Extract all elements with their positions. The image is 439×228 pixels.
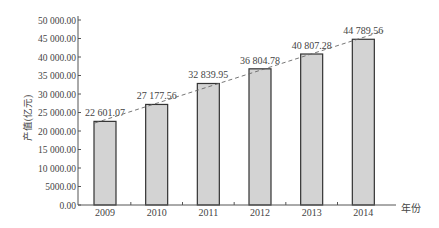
y-tick-label: 45 000.00 (38, 34, 76, 44)
y-tick-label: 35 000.00 (38, 71, 76, 81)
bar (146, 104, 168, 205)
axes (78, 16, 396, 205)
x-axis-label: 年份 (401, 202, 421, 214)
bar-value-label: 44 789.56 (343, 25, 383, 36)
bar (301, 54, 323, 205)
x-tick-label: 2009 (95, 207, 115, 218)
bar (352, 39, 374, 205)
x-tick-label: 2012 (250, 207, 270, 218)
x-tick-label: 2010 (147, 207, 167, 218)
bar-value-label: 27 177.56 (137, 90, 177, 101)
bar-value-label: 36 804.78 (240, 55, 280, 66)
bar (94, 121, 116, 205)
y-tick-label: 50 000.00 (38, 16, 76, 26)
y-tick-label: 25 000.00 (38, 108, 76, 118)
bars: 22 601.0727 177.5632 839.9536 804.7840 8… (85, 25, 383, 205)
y-axis-ticks: 0.005000.0010 000.0015 000.0020 000.0025… (38, 16, 81, 211)
trend-line (95, 31, 383, 123)
bar-value-label: 40 807.28 (292, 40, 332, 51)
y-tick-label: 40 000.00 (38, 53, 76, 63)
x-tick-label: 2014 (353, 207, 373, 218)
x-tick-label: 2013 (302, 207, 322, 218)
y-tick-label: 10 000.00 (38, 164, 76, 174)
x-tick-label: 2011 (199, 207, 219, 218)
y-axis-label: 产值(亿元) (22, 95, 34, 141)
bar (197, 83, 219, 205)
y-tick-label: 15 000.00 (38, 145, 76, 155)
bar (249, 69, 271, 205)
bar-chart: 0.005000.0010 000.0015 000.0020 000.0025… (0, 0, 439, 228)
y-tick-label: 30 000.00 (38, 90, 76, 100)
y-tick-label: 5000.00 (45, 182, 76, 192)
y-tick-label: 0.00 (59, 201, 76, 211)
x-axis-labels: 200920102011201220132014 (95, 207, 373, 218)
bar-value-label: 32 839.95 (188, 69, 228, 80)
bar-value-label: 22 601.07 (85, 107, 125, 118)
y-tick-label: 20 000.00 (38, 127, 76, 137)
